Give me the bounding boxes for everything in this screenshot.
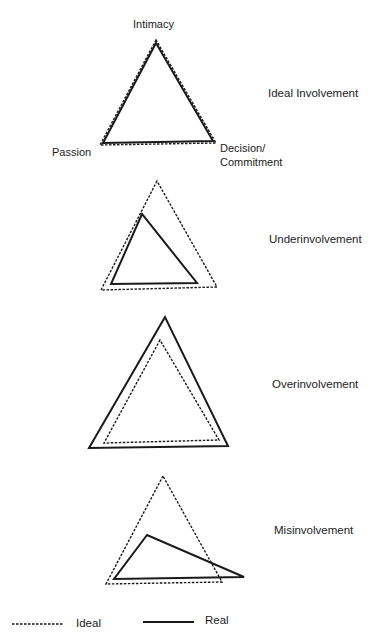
legend-ideal-label: Ideal bbox=[76, 617, 101, 629]
real-triangle bbox=[111, 214, 197, 284]
real-triangle bbox=[89, 317, 228, 448]
panel-misinvolvement bbox=[106, 476, 244, 584]
real-triangle bbox=[103, 43, 213, 143]
label-passion: Passion bbox=[52, 146, 91, 159]
label-decision: Decision/ bbox=[220, 142, 265, 155]
real-triangle bbox=[114, 535, 244, 579]
legend-real-label: Real bbox=[205, 614, 229, 626]
title-overinvolvement: Overinvolvement bbox=[272, 378, 358, 390]
title-ideal-involvement: Ideal Involvement bbox=[268, 87, 358, 99]
ideal-triangle bbox=[100, 40, 216, 145]
label-commitment: Commitment bbox=[220, 156, 282, 169]
title-misinvolvement: Misinvolvement bbox=[274, 524, 353, 536]
title-underinvolvement: Underinvolvement bbox=[269, 233, 362, 245]
label-intimacy: Intimacy bbox=[133, 18, 174, 31]
panel-overinvolvement bbox=[89, 317, 228, 448]
panel-underinvolvement bbox=[101, 181, 217, 290]
panel-ideal-involvement bbox=[100, 40, 216, 145]
